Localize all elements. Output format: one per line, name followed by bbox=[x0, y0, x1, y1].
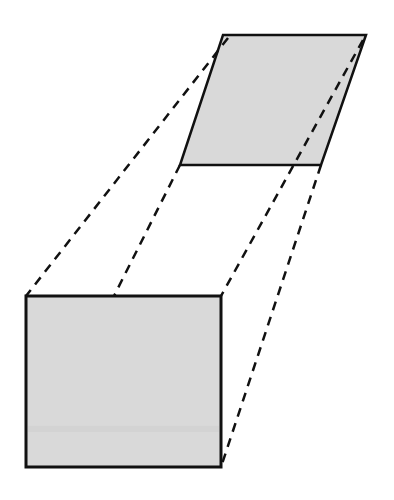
rectangle-group bbox=[26, 296, 221, 467]
projection-diagram bbox=[0, 0, 394, 500]
diagram-canvas bbox=[0, 0, 394, 500]
rectangle-shade-band bbox=[28, 426, 219, 432]
rectangle-shape bbox=[26, 296, 221, 467]
